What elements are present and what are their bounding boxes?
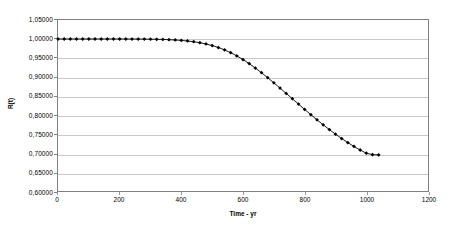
data-point-marker bbox=[68, 37, 72, 41]
data-point-marker bbox=[167, 38, 171, 42]
x-axis-tick-label: 0 bbox=[37, 196, 77, 204]
x-axis-tick-mark bbox=[119, 192, 120, 195]
data-point-marker bbox=[186, 39, 190, 43]
data-point-marker bbox=[56, 37, 60, 41]
data-point-marker bbox=[229, 51, 233, 55]
x-axis-tick-label: 400 bbox=[161, 196, 201, 204]
x-axis-tick-label: 600 bbox=[223, 196, 263, 204]
series-line bbox=[58, 39, 379, 155]
y-axis-tick-label: 1,00000 bbox=[1, 35, 53, 42]
data-point-marker bbox=[62, 37, 66, 41]
data-point-marker bbox=[192, 40, 196, 44]
data-point-marker bbox=[87, 37, 91, 41]
x-axis-tick-mark bbox=[181, 192, 182, 195]
data-point-marker bbox=[161, 38, 165, 42]
data-point-marker bbox=[75, 37, 79, 41]
y-axis-tick-label: 0,85000 bbox=[1, 92, 53, 99]
data-point-marker bbox=[142, 37, 146, 41]
x-axis-tick-labels: 020040060080010001200 bbox=[57, 196, 429, 206]
y-axis-tick-label: 1,05000 bbox=[1, 16, 53, 23]
data-point-marker bbox=[118, 37, 122, 41]
data-point-marker bbox=[210, 44, 214, 48]
x-axis-tick-label: 200 bbox=[99, 196, 139, 204]
data-point-marker bbox=[173, 38, 177, 42]
x-axis-tick-mark bbox=[429, 192, 430, 195]
data-point-marker bbox=[179, 39, 183, 43]
y-axis-tick-label: 0,60000 bbox=[1, 189, 53, 196]
reliability-chart-figure: R(t) 0,600000,650000,700000,750000,80000… bbox=[0, 0, 452, 238]
y-axis-tick-label: 0,95000 bbox=[1, 54, 53, 61]
series-markers bbox=[56, 37, 380, 157]
x-axis-tick-label: 800 bbox=[285, 196, 325, 204]
data-point-marker bbox=[136, 37, 140, 41]
data-point-marker bbox=[198, 41, 202, 45]
y-axis-tick-label: 0,90000 bbox=[1, 73, 53, 80]
data-point-marker bbox=[99, 37, 103, 41]
data-point-marker bbox=[124, 37, 128, 41]
data-point-marker bbox=[223, 48, 227, 52]
data-point-marker bbox=[216, 46, 220, 50]
data-point-marker bbox=[130, 37, 134, 41]
y-axis-tick-label: 0,75000 bbox=[1, 131, 53, 138]
data-point-marker bbox=[204, 42, 208, 46]
y-axis-tick-label: 0,70000 bbox=[1, 150, 53, 157]
plot-area bbox=[57, 19, 429, 192]
y-axis-tick-labels: 0,600000,650000,700000,750000,800000,850… bbox=[0, 19, 53, 192]
data-point-marker bbox=[112, 37, 116, 41]
x-axis-tick-label: 1200 bbox=[409, 196, 449, 204]
data-point-marker bbox=[149, 37, 153, 41]
x-axis-title: Time - yr bbox=[57, 210, 429, 217]
y-axis-tick-label: 0,65000 bbox=[1, 169, 53, 176]
series-layer bbox=[58, 20, 428, 191]
data-point-marker bbox=[371, 153, 375, 157]
data-point-marker bbox=[93, 37, 97, 41]
x-axis-tick-mark bbox=[305, 192, 306, 195]
y-axis-tick-label: 0,80000 bbox=[1, 112, 53, 119]
x-axis-tick-mark bbox=[243, 192, 244, 195]
data-point-marker bbox=[105, 37, 109, 41]
data-point-marker bbox=[377, 153, 381, 157]
x-axis-tick-mark bbox=[57, 192, 58, 195]
x-axis-tick-label: 1000 bbox=[347, 196, 387, 204]
data-point-marker bbox=[155, 37, 159, 41]
data-point-marker bbox=[81, 37, 85, 41]
data-point-marker bbox=[364, 151, 368, 155]
data-point-marker bbox=[358, 148, 362, 152]
data-point-marker bbox=[235, 54, 239, 58]
x-axis-tick-mark bbox=[367, 192, 368, 195]
